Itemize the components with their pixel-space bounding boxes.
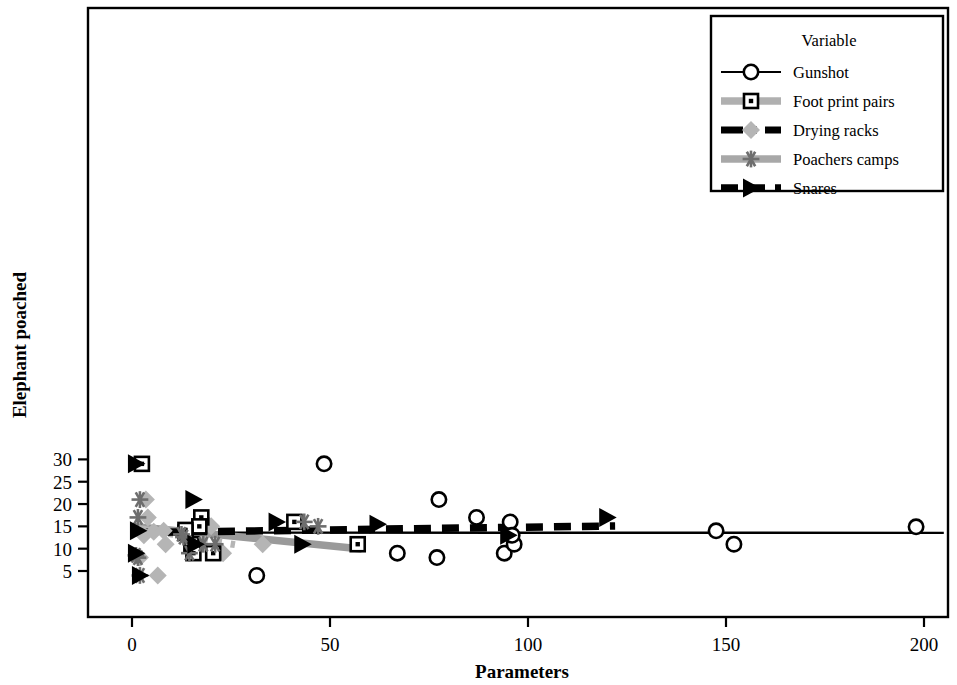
x-tick-label: 100 [514, 634, 543, 655]
x-axis-title: Parameters [475, 661, 569, 682]
marker-series-foot-print-pairs [192, 519, 206, 533]
y-tick-label: 30 [53, 449, 72, 470]
legend-label: Foot print pairs [793, 92, 895, 111]
legend-label: Gunshot [793, 63, 849, 82]
x-tick-label: 0 [127, 634, 137, 655]
marker-series-gunshot [432, 492, 446, 506]
legend-item-foot-print-pairs[interactable]: Foot print pairs [721, 92, 895, 111]
legend: VariableGunshotFoot print pairsDrying ra… [711, 16, 943, 198]
legend-title: Variable [802, 31, 857, 50]
chart-root: 51015202530 050100150200 Elephant poache… [0, 0, 957, 685]
scatter-chart: 51015202530 050100150200 Elephant poache… [0, 0, 957, 685]
y-tick-label: 15 [53, 516, 72, 537]
legend-label: Drying racks [793, 121, 879, 140]
marker-series-gunshot [503, 515, 517, 529]
x-tick-label: 200 [910, 634, 939, 655]
y-tick-label: 5 [63, 561, 73, 582]
y-axis-title: Elephant poached [9, 271, 30, 418]
marker-series-foot-print-pairs [351, 537, 365, 551]
y-tick-label: 20 [53, 494, 72, 515]
legend-marker [744, 94, 758, 108]
marker-series-gunshot [317, 457, 331, 471]
legend-label: Poachers camps [793, 150, 899, 169]
marker-series-gunshot [469, 510, 483, 524]
marker-series-gunshot [709, 524, 723, 538]
y-tick-label: 25 [53, 472, 72, 493]
x-tick-label: 50 [321, 634, 340, 655]
x-tick-label: 150 [712, 634, 741, 655]
marker-series-gunshot [727, 537, 741, 551]
legend-item-poachers-camps[interactable]: Poachers camps [721, 150, 899, 169]
y-tick-label: 10 [53, 539, 72, 560]
legend-label: Snares [793, 179, 837, 198]
marker-series-gunshot [390, 546, 404, 560]
marker-series-gunshot [430, 550, 444, 564]
legend-marker [744, 65, 758, 79]
marker-series-gunshot [909, 520, 923, 534]
marker-series-gunshot [250, 568, 264, 582]
